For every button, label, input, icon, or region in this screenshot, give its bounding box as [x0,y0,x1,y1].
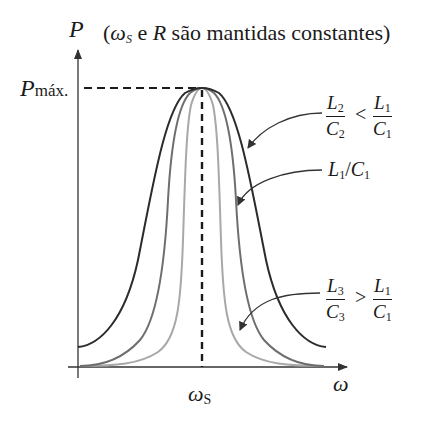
y-axis-label: P [69,17,84,41]
label-narrow-rhs: L1 C1 [373,276,392,323]
annotation-omega: ω [110,20,126,45]
constants-annotation: (ωS e R são mantidas constantes) [103,22,390,45]
annotation-suffix: são mantidas constantes) [166,20,390,45]
leader-arrow-narrow [240,293,320,330]
label-narrow-lhs: L3 C3 [326,276,345,323]
label-wide-rhs: L1 C1 [373,93,392,140]
label-narrow-relation: > [355,286,366,309]
label-reference: L1/C1 [328,159,370,181]
pmax-main: P [20,75,35,101]
label-wide-lhs: L2 C2 [326,93,345,140]
leader-arrow-wide [248,113,322,148]
x-axis-label: ω [333,373,349,395]
omega-s-main: ω [188,381,204,406]
annotation-middle: e [132,20,153,45]
annotation-r: R [153,20,166,45]
pmax-label: Pmáx. [20,76,68,100]
omega-s-sub: S [204,392,212,407]
pmax-sub: máx. [35,81,69,100]
resonance-diagram [0,0,426,431]
omega-s-label: ωS [188,383,211,407]
label-wide-relation: < [355,103,366,126]
